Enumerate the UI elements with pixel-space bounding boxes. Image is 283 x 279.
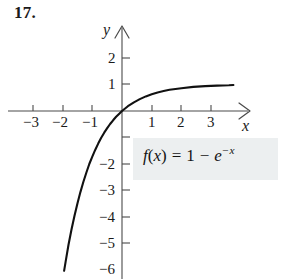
y-tick-label-1: 1 bbox=[108, 77, 116, 92]
y-tick-label--2: −2 bbox=[99, 157, 115, 172]
equation-minus-sign: − bbox=[200, 146, 210, 165]
equation-exp-base: e bbox=[214, 146, 222, 165]
x-tick-label-2: 2 bbox=[177, 115, 185, 130]
y-tick-label--3: −3 bbox=[99, 183, 115, 198]
y-tick-label-2: 2 bbox=[108, 51, 116, 66]
equation-equals-sign: = bbox=[172, 146, 182, 165]
y-axis-label: y bbox=[103, 22, 110, 38]
x-tick-label-1: 1 bbox=[148, 115, 156, 130]
x-tick-label--3: −3 bbox=[23, 115, 39, 130]
y-tick-label--4: −4 bbox=[99, 210, 115, 225]
y-tick-label--6: −6 bbox=[99, 262, 115, 277]
equation-one: 1 bbox=[186, 146, 195, 165]
exercise-figure: 17. −3 −2 −1 1 2 3 2 1 −2 −3 −4 bbox=[0, 0, 283, 279]
y-tick-label--5: −5 bbox=[99, 236, 115, 251]
x-tick-label--2: −2 bbox=[52, 115, 68, 130]
equation-label: f(x)=1−e−x bbox=[143, 147, 234, 164]
x-tick-label-3: 3 bbox=[207, 115, 215, 130]
x-tick-label--1: −1 bbox=[82, 115, 98, 130]
x-axis-label: x bbox=[242, 118, 249, 134]
equation-close-paren: ) bbox=[161, 146, 167, 165]
equation-variable: x bbox=[153, 146, 161, 165]
equation-exponent: −x bbox=[222, 144, 235, 156]
